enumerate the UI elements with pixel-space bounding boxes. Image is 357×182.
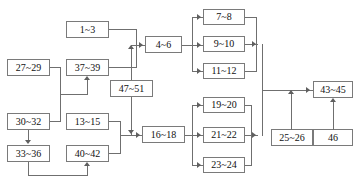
- node-label: 40~42: [75, 148, 100, 158]
- arrowhead-into-4-6: [139, 42, 143, 48]
- node-label: 4~6: [156, 39, 171, 49]
- arrowhead-into-43-45: [306, 87, 310, 93]
- edge-1-3-drop: [136, 29, 137, 45]
- flow-diagram: 1~3 27~29 37~39 4~6 7~8 9~10 11~12 47~51…: [0, 0, 357, 182]
- node-21-22[interactable]: 21~22: [203, 127, 245, 143]
- node-23-24[interactable]: 23~24: [203, 157, 245, 173]
- node-30-32[interactable]: 30~32: [7, 113, 50, 130]
- arrowhead-into-37-39: [84, 76, 90, 80]
- node-25-26[interactable]: 25~26: [271, 129, 313, 146]
- arrowhead-47-51-down: [128, 130, 134, 134]
- node-43-45[interactable]: 43~45: [313, 81, 353, 98]
- node-27-29[interactable]: 27~29: [7, 59, 50, 76]
- node-4-6[interactable]: 4~6: [145, 36, 182, 53]
- edge-47-51-up: [131, 48, 132, 80]
- node-label: 7~8: [216, 12, 231, 22]
- node-label: 11~12: [211, 66, 236, 76]
- edge-37-39-rise: [136, 45, 137, 68]
- node-40-42[interactable]: 40~42: [66, 145, 109, 162]
- arrowhead-into-9-10: [197, 42, 201, 48]
- arrowhead-upper-collect: [252, 41, 256, 47]
- arrowhead-into-33-36: [25, 140, 31, 144]
- arrowhead-47-51-up: [128, 45, 134, 49]
- edge-46-up: [333, 101, 334, 130]
- arrowhead-46-up: [330, 98, 336, 102]
- arrowhead-lower-collect: [252, 132, 256, 138]
- edge-30-32-out: [50, 121, 61, 122]
- edge-loop-rise-40-42: [87, 165, 88, 176]
- arrowhead-into-21-22: [197, 132, 201, 138]
- node-9-10[interactable]: 9~10: [203, 36, 245, 52]
- node-label: 16~18: [151, 129, 176, 139]
- arrowhead-into-19-20: [197, 102, 201, 108]
- arrowhead-into-23-24: [197, 162, 201, 168]
- edge-13-15-drop: [120, 121, 121, 136]
- node-label: 27~29: [16, 62, 41, 72]
- node-37-39[interactable]: 37~39: [66, 59, 109, 76]
- node-label: 47~51: [119, 83, 144, 93]
- node-33-36[interactable]: 33~36: [7, 145, 50, 162]
- node-label: 13~15: [75, 116, 100, 126]
- node-label: 23~24: [211, 160, 236, 170]
- node-label: 43~45: [320, 84, 345, 94]
- edge-bus-to-37-39-rise: [87, 79, 88, 95]
- node-13-15[interactable]: 13~15: [66, 113, 109, 130]
- node-7-8[interactable]: 7~8: [203, 9, 245, 25]
- edge-37-39-to-junction: [109, 67, 137, 68]
- node-16-18[interactable]: 16~18: [142, 126, 185, 143]
- arrowhead-into-11-12: [197, 68, 201, 74]
- node-46[interactable]: 46: [313, 129, 353, 146]
- node-label: 21~22: [211, 130, 236, 140]
- edge-upper-down-to-rail: [262, 44, 263, 90]
- edge-33-36-drop: [28, 162, 29, 176]
- edge-lower-up-to-rail: [262, 90, 263, 136]
- edge-bus-to-37-39-lead: [60, 94, 88, 95]
- node-label: 46: [328, 132, 338, 142]
- arrowhead-into-7-8: [197, 14, 201, 20]
- edge-4-6-fan-bus: [192, 17, 193, 71]
- node-47-51[interactable]: 47~51: [110, 80, 153, 97]
- arrowhead-into-40-42: [84, 162, 90, 166]
- node-1-3[interactable]: 1~3: [66, 21, 109, 38]
- node-label: 1~3: [80, 24, 95, 34]
- arrowhead-25-26-up: [288, 90, 294, 94]
- node-label: 25~26: [279, 132, 304, 142]
- node-19-20[interactable]: 19~20: [203, 97, 245, 113]
- node-11-12[interactable]: 11~12: [203, 63, 245, 79]
- node-label: 30~32: [16, 116, 41, 126]
- node-label: 37~39: [75, 62, 100, 72]
- node-label: 33~36: [16, 148, 41, 158]
- edge-25-26-up: [291, 93, 292, 130]
- edge-1-3-to-junction: [109, 29, 137, 30]
- node-label: 9~10: [214, 39, 234, 49]
- node-label: 19~20: [211, 100, 236, 110]
- edge-bottom-loop: [28, 175, 88, 176]
- edge-40-42-rise: [120, 135, 121, 154]
- edge-16-18-fan-bus: [192, 105, 193, 165]
- arrowhead-into-16-18: [136, 132, 140, 138]
